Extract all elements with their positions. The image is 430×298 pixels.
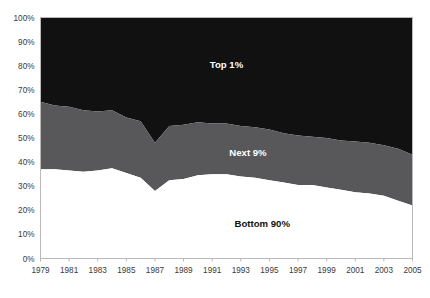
y-axis-tick-label: 0% <box>23 255 35 264</box>
y-axis-tick-label: 90% <box>18 38 34 47</box>
x-axis-tick-label: 2001 <box>346 266 365 275</box>
x-axis-tick-label: 1989 <box>174 266 193 275</box>
y-axis-tick-label: 50% <box>18 134 34 143</box>
y-axis-tick-label: 10% <box>18 230 34 239</box>
x-axis-tick-label: 1993 <box>232 266 251 275</box>
x-axis-tick-label: 1983 <box>89 266 108 275</box>
x-axis-tick-label: 1991 <box>203 266 222 275</box>
x-axis-tick-label: 2003 <box>375 266 394 275</box>
y-axis-tick-label: 80% <box>18 62 34 71</box>
series-label-next-9: Next 9% <box>229 147 267 158</box>
y-axis-tick-label: 100% <box>14 14 35 23</box>
x-axis-tick-label: 1979 <box>31 266 50 275</box>
x-axis-tick-label: 1995 <box>260 266 279 275</box>
x-axis-tick-label: 1981 <box>60 266 79 275</box>
x-axis-tick-label: 1985 <box>117 266 136 275</box>
x-axis-tick-label: 1987 <box>146 266 165 275</box>
series-label-top-1: Top 1% <box>210 59 244 70</box>
x-axis-tick-label: 2005 <box>403 266 422 275</box>
x-axis-tick-label: 1997 <box>289 266 308 275</box>
y-axis-tick-label: 60% <box>18 110 34 119</box>
y-axis-tick-label: 40% <box>18 158 34 167</box>
y-axis-tick-label: 20% <box>18 206 34 215</box>
y-axis-tick-label: 70% <box>18 86 34 95</box>
series-label-bottom-90: Bottom 90% <box>235 218 291 229</box>
chart-container: 0%10%20%30%40%50%60%70%80%90%100% 197919… <box>0 0 430 298</box>
x-axis-tick-label: 1999 <box>318 266 337 275</box>
y-axis-tick-label: 30% <box>18 182 34 191</box>
plot-areas-group <box>41 18 413 259</box>
stacked-area-chart: 0%10%20%30%40%50%60%70%80%90%100% 197919… <box>0 0 430 298</box>
